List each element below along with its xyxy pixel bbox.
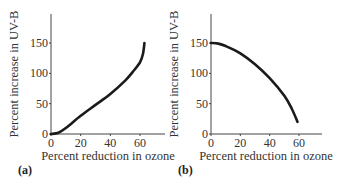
x-tick-label: 0 [48, 136, 54, 150]
x-tick-label: 60 [293, 136, 305, 150]
y-tick-label: 50 [196, 97, 208, 111]
x-tick-label: 20 [75, 136, 87, 150]
y-tick-label: 100 [190, 66, 208, 80]
y-tick-label: 150 [30, 36, 48, 50]
x-tick-label: 20 [234, 136, 246, 150]
y-axis-label: Percent increase in UV-B [167, 11, 181, 138]
panel-label: (a) [18, 163, 32, 177]
data-curve [211, 43, 298, 122]
chart-panel-a: 0501001500204060Percent reduction in ozo… [7, 11, 175, 177]
x-axis-label: Percent reduction in ozone [41, 149, 175, 163]
x-tick-label: 60 [134, 136, 146, 150]
data-curve [51, 43, 144, 134]
x-tick-label: 0 [208, 136, 214, 150]
chart-panel-b: 0501001500204060Percent reduction in ozo… [167, 11, 333, 177]
y-tick-label: 100 [30, 66, 48, 80]
y-tick-label: 50 [36, 97, 48, 111]
y-axis-label: Percent increase in UV-B [7, 11, 21, 138]
x-tick-label: 40 [264, 136, 276, 150]
x-tick-label: 40 [104, 136, 116, 150]
chart-canvas: 0501001500204060Percent reduction in ozo… [0, 0, 341, 190]
x-axis-label: Percent reduction in ozone [199, 149, 333, 163]
panel-label: (b) [178, 163, 193, 177]
y-tick-label: 150 [190, 36, 208, 50]
